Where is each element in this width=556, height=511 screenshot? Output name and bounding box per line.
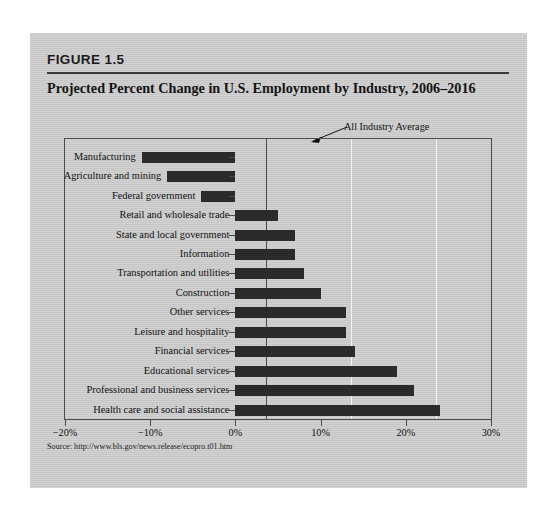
bar-row: Retail and wholesale trade: [65, 206, 491, 225]
category-tick: [229, 196, 235, 197]
category-label: Retail and wholesale trade: [119, 207, 229, 222]
bar: [235, 288, 320, 299]
x-axis-tick: [321, 420, 322, 426]
category-tick: [229, 254, 235, 255]
category-tick: [229, 332, 235, 333]
x-axis-tick: [491, 420, 492, 426]
bar: [142, 152, 236, 163]
x-axis-label: −20%: [53, 427, 77, 438]
bar-row: Other services: [65, 303, 491, 322]
x-axis-label: 20%: [396, 427, 415, 438]
x-axis-tick: [235, 420, 236, 426]
bar: [235, 346, 354, 357]
source-note: Source: http://www.bls.gov/news.release/…: [47, 442, 232, 451]
bar-row: Health care and social assistance: [65, 401, 491, 420]
bar-rows: ManufacturingAgriculture and miningFeder…: [65, 139, 491, 419]
bar-row: Information: [65, 245, 491, 264]
bar-row: Professional and business services: [65, 381, 491, 400]
figure-panel: FIGURE 1.5 Projected Percent Change in U…: [30, 33, 527, 488]
category-label: Information: [180, 246, 230, 261]
figure-title: Projected Percent Change in U.S. Employm…: [47, 80, 517, 97]
category-label: Other services: [170, 304, 230, 319]
bar-row: Educational services: [65, 362, 491, 381]
category-tick: [229, 157, 235, 158]
figure-page: FIGURE 1.5 Projected Percent Change in U…: [0, 0, 556, 511]
category-tick: [229, 371, 235, 372]
category-tick: [229, 293, 235, 294]
category-label: Federal government: [112, 188, 195, 203]
category-label: Manufacturing: [74, 149, 136, 164]
x-axis-tick: [65, 420, 66, 426]
bar-row: State and local government: [65, 226, 491, 245]
category-tick: [229, 235, 235, 236]
x-axis-tick: [150, 420, 151, 426]
header-rule: [47, 72, 509, 74]
x-axis-label: −10%: [138, 427, 162, 438]
x-axis-label: 0%: [229, 427, 243, 438]
bar: [235, 385, 414, 396]
x-axis-label: 10%: [311, 427, 330, 438]
category-label: Leisure and hospitality: [134, 324, 229, 339]
bar-row: Transportation and utilities: [65, 264, 491, 283]
bar: [235, 249, 295, 260]
bar: [235, 230, 295, 241]
category-tick: [229, 176, 235, 177]
category-label: Educational services: [144, 363, 230, 378]
bar: [167, 171, 235, 182]
category-tick: [229, 390, 235, 391]
annotation-label: All Industry Average: [344, 121, 429, 132]
category-label: Professional and business services: [87, 382, 230, 397]
x-axis-label: 30%: [482, 427, 501, 438]
bar-row: Leisure and hospitality: [65, 323, 491, 342]
plot-area: ManufacturingAgriculture and miningFeder…: [64, 138, 492, 420]
category-label: Agriculture and mining: [64, 168, 162, 183]
bar-row: Financial services: [65, 342, 491, 361]
bar: [235, 307, 346, 318]
figure-label: FIGURE 1.5: [47, 52, 125, 67]
category-label: Transportation and utilities: [117, 265, 229, 280]
bar: [235, 268, 303, 279]
category-tick: [229, 410, 235, 411]
bar-row: Construction: [65, 284, 491, 303]
category-label: Construction: [176, 285, 230, 300]
bar-row: Federal government: [65, 187, 491, 206]
bar: [235, 366, 397, 377]
bar-row: Agriculture and mining: [65, 167, 491, 186]
bar: [235, 210, 278, 221]
category-label: Health care and social assistance: [93, 402, 229, 417]
bar-row: Manufacturing: [65, 148, 491, 167]
x-axis-tick: [406, 420, 407, 426]
category-tick: [229, 273, 235, 274]
bar: [235, 405, 439, 416]
category-label: State and local government: [116, 227, 229, 242]
category-tick: [229, 351, 235, 352]
category-label: Financial services: [155, 343, 230, 358]
category-tick: [229, 312, 235, 313]
bar: [235, 327, 346, 338]
category-tick: [229, 215, 235, 216]
